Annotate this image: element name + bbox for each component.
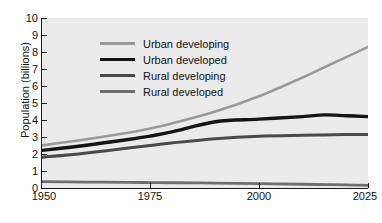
legend-swatch-icon	[100, 74, 135, 77]
legend-item-3: Rural developed	[100, 85, 229, 98]
legend-label: Rural developed	[143, 86, 223, 98]
plot-area: Urban developingUrban developedRural dev…	[41, 18, 368, 188]
legend-label: Urban developing	[143, 38, 229, 50]
y-tick-mark	[42, 18, 47, 19]
legend-label: Urban developed	[143, 54, 227, 66]
y-axis-title: Population (billions)	[19, 15, 31, 165]
x-tick-mark	[41, 183, 42, 188]
legend-item-2: Rural developing	[100, 69, 229, 82]
y-tick-mark	[42, 171, 47, 172]
legend-swatch-icon	[100, 90, 135, 93]
x-tick-label: 1975	[126, 191, 174, 202]
x-tick-mark	[150, 183, 151, 188]
y-tick-mark	[42, 69, 47, 70]
legend-item-1: Urban developed	[100, 53, 229, 66]
legend-item-0: Urban developing	[100, 37, 229, 50]
y-tick-mark	[42, 154, 47, 155]
x-tick-label: 1950	[20, 191, 68, 202]
x-axis-spine	[41, 188, 368, 189]
y-tick-mark	[42, 120, 47, 121]
legend-swatch-icon	[100, 42, 135, 45]
chart-legend: Urban developingUrban developedRural dev…	[100, 37, 229, 98]
y-tick-mark	[42, 137, 47, 138]
y-tick-label: 1	[10, 166, 38, 177]
series-line-1	[41, 115, 368, 151]
y-tick-mark	[42, 103, 47, 104]
y-tick-mark	[42, 35, 47, 36]
x-tick-label: 2025	[341, 191, 382, 202]
x-tick-mark	[259, 183, 260, 188]
y-tick-mark	[42, 188, 47, 189]
y-tick-mark	[42, 52, 47, 53]
legend-label: Rural developing	[143, 70, 226, 82]
y-tick-mark	[42, 86, 47, 87]
series-line-3	[41, 182, 368, 186]
x-tick-label: 2000	[235, 191, 283, 202]
x-tick-mark	[368, 183, 369, 188]
legend-swatch-icon	[100, 58, 135, 61]
